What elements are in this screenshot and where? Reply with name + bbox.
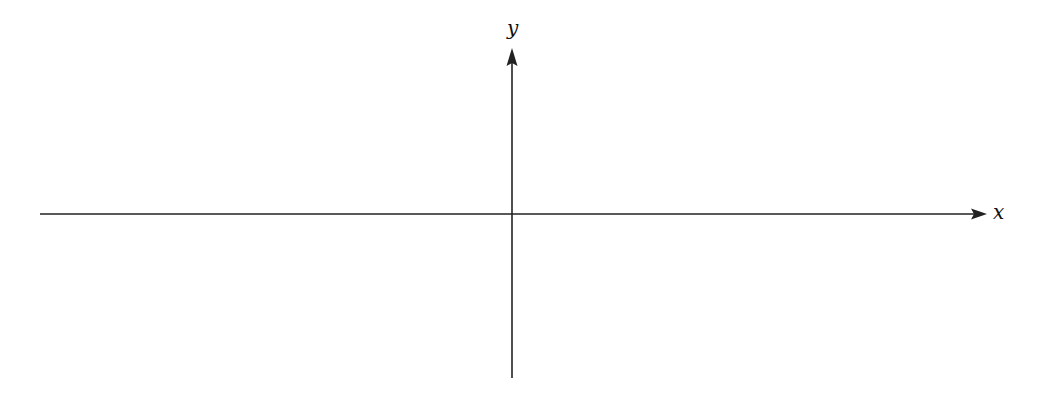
axes-svg	[0, 0, 1045, 394]
y-axis-label: y	[507, 18, 518, 38]
coordinate-diagram: y x	[0, 0, 1045, 394]
x-axis-label: x	[993, 202, 1004, 222]
